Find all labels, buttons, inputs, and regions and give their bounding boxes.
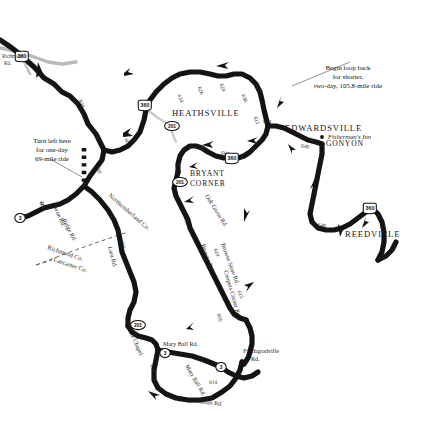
route-number-600-3: 600 [95, 165, 103, 175]
callout-loop-back-line-2: two-day, 105.8-mile ride [314, 82, 382, 89]
road-name-label-2: Lara Rd. [107, 246, 118, 269]
route-number-605-20: 605 [216, 313, 224, 323]
route-shield-3-9[interactable]: 3 [216, 362, 226, 371]
edge-label-1: Rd. [4, 60, 11, 66]
route-number-646-15: 646 [301, 142, 310, 149]
callout-leaders [50, 62, 350, 177]
route-number-634-7: 634 [177, 93, 186, 103]
route-number-611-11: 611 [253, 116, 261, 126]
road-name-labels: Ridge Rd.Avon Rd.Lara Rd.Oak Grove Rd.Br… [52, 193, 279, 406]
route-shield-201-2[interactable]: 201 [165, 121, 180, 130]
callout-turn-left-line-1: for one-day [36, 146, 69, 153]
route-number-629-9: 629 [219, 83, 227, 93]
shield-number: 201 [176, 180, 184, 185]
route-shield-3-6[interactable]: 3 [15, 213, 25, 222]
road-name-label-12: Rd. [251, 356, 260, 362]
route-shield-201-4[interactable]: 201 [173, 177, 188, 186]
road-name-label-3: Oak Grove Rd. [204, 193, 229, 228]
route-shields: 360360201360201360320133 [15, 51, 377, 371]
shield-number: 360 [141, 102, 150, 108]
road-name-label-9: Mary Ball Rd. [184, 364, 207, 398]
callout-loop-back-line-1: for shorter, [333, 73, 364, 80]
shield-number: 201 [168, 124, 176, 129]
town-label-edwardsville: EDWARDSVILLE [285, 123, 362, 133]
route-shield-201-7[interactable]: 201 [131, 320, 146, 329]
route-number-615-19: 615 [237, 289, 246, 299]
route-shield-360-3[interactable]: 360 [225, 153, 238, 164]
callout-turn-left-line-2: 69-mile ride [35, 155, 69, 162]
poi-label-fishermans-inn: Fisherman's Inn [327, 133, 372, 140]
route-shield-360-5[interactable]: 360 [363, 203, 376, 214]
callout-loop-back-line-0: Begin loop back [325, 64, 371, 71]
shield-number: 3 [164, 351, 167, 356]
town-label-bryant: BRYANT [190, 169, 225, 178]
shield-number: 360 [228, 155, 237, 161]
callout-turn-left-line-0: Turn left here [33, 137, 71, 144]
bike-route-map: HEATHSVILLEEDWARDSVILLEGONYONREEDVILLEBR… [0, 0, 432, 435]
poi-labels: Fisherman's Inn [327, 133, 372, 140]
route-number-604-13: 604 [195, 143, 204, 150]
edge-label-0: Richmond [2, 53, 24, 59]
route-number-636-10: 636 [241, 93, 250, 103]
road-name-label-8: Mary Ball Rd. [163, 341, 199, 347]
route-number-646-16: 646 [318, 221, 327, 228]
shield-number: 201 [134, 323, 142, 328]
town-label-reedville: REEDVILLE [345, 229, 400, 239]
route-shield-3-8[interactable]: 3 [160, 348, 170, 357]
poi-dot-fishermans-inn [320, 135, 324, 139]
road-name-label-1: Avon Rd. [52, 204, 67, 228]
route-number-626-8: 626 [197, 86, 205, 96]
route-number-614-22: 614 [209, 379, 218, 386]
town-label-heathsville: HEATHSVILLE [172, 108, 240, 118]
route-number-610-18: 610 [213, 248, 221, 258]
route-shield-360-1[interactable]: 360 [138, 100, 151, 111]
route-number-604-12: 604 [263, 117, 272, 124]
shield-number: 3 [19, 216, 22, 221]
town-label-corner: CORNER [190, 179, 226, 188]
town-label-gonyon: GONYON [326, 139, 364, 148]
map-canvas: HEATHSVILLEEDWARDSVILLEGONYONREEDVILLEBR… [0, 0, 432, 435]
shield-number: 3 [220, 365, 223, 370]
town-labels: HEATHSVILLEEDWARDSVILLEGONYONREEDVILLEBR… [172, 108, 400, 239]
road-name-label-11: Pinchgrodville [243, 348, 279, 354]
shield-number: 360 [366, 205, 375, 211]
